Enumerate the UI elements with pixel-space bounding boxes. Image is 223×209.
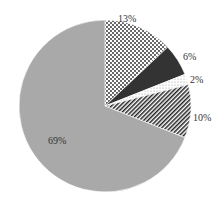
label-2: 2% [190, 74, 203, 85]
label-10: 10% [193, 112, 211, 123]
label-6: 6% [183, 51, 196, 62]
label-69: 69% [48, 135, 66, 146]
label-13: 13% [118, 13, 136, 24]
pie-chart: 13% 6% 2% 10% 69% [0, 0, 223, 209]
pie-slices [19, 20, 191, 192]
